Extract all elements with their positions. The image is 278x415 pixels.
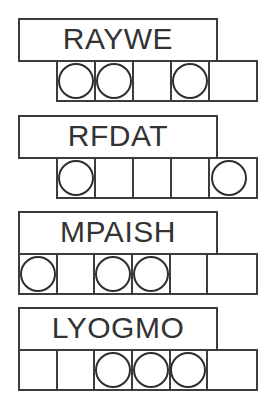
circle-icon	[172, 63, 208, 99]
answer-cell-empty[interactable]	[20, 351, 58, 389]
answer-cell-grid	[18, 253, 258, 295]
answer-cell-grid	[56, 60, 258, 102]
answer-cell-grid	[56, 157, 258, 199]
answer-cell-circled[interactable]	[210, 159, 248, 197]
answer-cell-circled[interactable]	[58, 159, 96, 197]
answer-cell-empty[interactable]	[172, 159, 210, 197]
answer-cell-circled[interactable]	[171, 351, 209, 389]
circle-icon	[95, 352, 131, 388]
circle-icon	[211, 160, 247, 196]
circle-icon	[133, 256, 169, 292]
circle-icon	[170, 352, 206, 388]
word-box[interactable]: RAYWE	[18, 18, 218, 62]
answer-cell-circled[interactable]	[58, 62, 96, 100]
answer-cell-circled[interactable]	[95, 255, 133, 293]
word-text: MPAISH	[60, 217, 176, 247]
word-box[interactable]: LYOGMO	[18, 307, 218, 351]
word-text: RFDAT	[68, 121, 168, 151]
circle-icon	[96, 63, 132, 99]
answer-cell-empty[interactable]	[96, 159, 134, 197]
word-text: LYOGMO	[52, 313, 184, 343]
answer-cell-empty[interactable]	[134, 62, 172, 100]
answer-cell-grid	[18, 349, 258, 391]
word-box[interactable]: MPAISH	[18, 211, 218, 255]
answer-cell-empty[interactable]	[134, 159, 172, 197]
answer-cell-circled[interactable]	[96, 62, 134, 100]
answer-cell-empty[interactable]	[58, 351, 96, 389]
circle-icon	[95, 256, 131, 292]
answer-cell-circled[interactable]	[20, 255, 58, 293]
circle-icon	[20, 256, 56, 292]
circle-icon	[58, 63, 94, 99]
answer-cell-circled[interactable]	[95, 351, 133, 389]
answer-cell-empty[interactable]	[208, 255, 246, 293]
puzzle-sheet: RAYWERFDATMPAISHLYOGMO	[0, 0, 278, 415]
circle-icon	[58, 160, 94, 196]
answer-cell-circled[interactable]	[133, 351, 171, 389]
word-box[interactable]: RFDAT	[18, 115, 218, 159]
answer-cell-circled[interactable]	[133, 255, 171, 293]
answer-cell-empty[interactable]	[58, 255, 96, 293]
word-text: RAYWE	[63, 24, 173, 54]
answer-cell-empty[interactable]	[210, 62, 248, 100]
answer-cell-empty[interactable]	[208, 351, 246, 389]
answer-cell-circled[interactable]	[172, 62, 210, 100]
answer-cell-empty[interactable]	[171, 255, 209, 293]
circle-icon	[133, 352, 169, 388]
